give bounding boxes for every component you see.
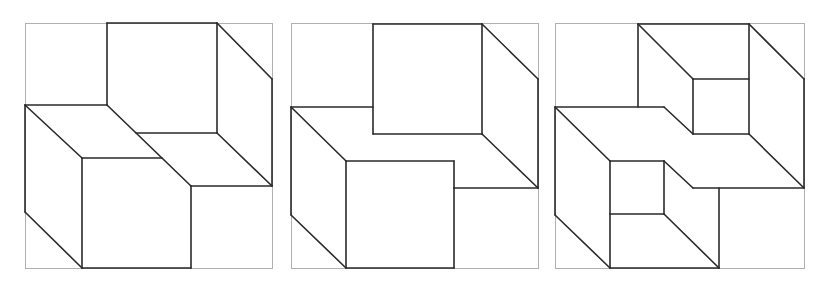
- panel-frame: [556, 24, 805, 269]
- cube-edge: [555, 215, 610, 268]
- panel-1: [25, 23, 273, 269]
- cube-edge: [25, 212, 82, 268]
- panel-frame: [292, 24, 539, 269]
- cube-edge: [482, 24, 538, 79]
- cube-edge: [217, 133, 272, 186]
- cube-edge: [291, 215, 346, 268]
- cube-edge: [638, 24, 693, 79]
- panel-3: [555, 24, 805, 269]
- diagram-canvas: [0, 0, 825, 284]
- cube-edge: [664, 107, 693, 134]
- cube-edge: [664, 214, 719, 268]
- cube-edge: [217, 23, 272, 79]
- cube-edge: [482, 134, 538, 188]
- cube-edge: [664, 161, 693, 188]
- cube-edge: [291, 107, 346, 161]
- cube-edge: [749, 24, 804, 79]
- cube-edge: [25, 105, 82, 158]
- cube-edge: [107, 105, 191, 186]
- panel-2: [291, 24, 539, 269]
- cube-edge: [555, 107, 610, 161]
- cube-edge: [749, 134, 804, 188]
